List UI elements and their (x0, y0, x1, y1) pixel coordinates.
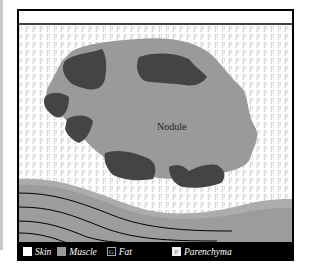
dark-patch (169, 164, 224, 187)
legend-item-skin: Skin (23, 247, 51, 257)
legend-item-fat: G Fat (107, 247, 132, 257)
legend-label: Skin (35, 247, 51, 257)
legend-item-parenchyma: P Parenchyma (172, 247, 232, 257)
legend-item-muscle: Muscle (57, 247, 96, 257)
parenchyma-swatch-icon: P (172, 247, 181, 256)
legend: Skin Muscle G Fat P Parenchyma (17, 242, 294, 261)
nodule-label: Nodule (157, 121, 186, 132)
legend-label: Muscle (69, 247, 96, 257)
muscle-swatch-icon (57, 247, 66, 256)
fat-swatch-icon: G (107, 247, 116, 256)
left-divider (0, 0, 3, 250)
legend-label: Parenchyma (184, 247, 232, 257)
legend-label: Fat (119, 247, 132, 257)
diagram-canvas: P (17, 9, 294, 261)
tissue-diagram: P Nodule (17, 9, 294, 261)
skin-swatch-icon (23, 247, 32, 256)
